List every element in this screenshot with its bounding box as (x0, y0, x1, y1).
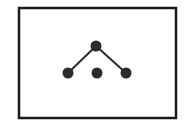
node-bottom-middle (92, 68, 103, 79)
diagram-frame (19, 8, 176, 118)
node-bottom-right (121, 68, 132, 79)
edge-top-bottom-left (68, 46, 96, 73)
nodes-group (63, 41, 132, 79)
node-top (91, 41, 102, 52)
node-bottom-left (63, 68, 74, 79)
diagram-canvas (0, 0, 187, 126)
